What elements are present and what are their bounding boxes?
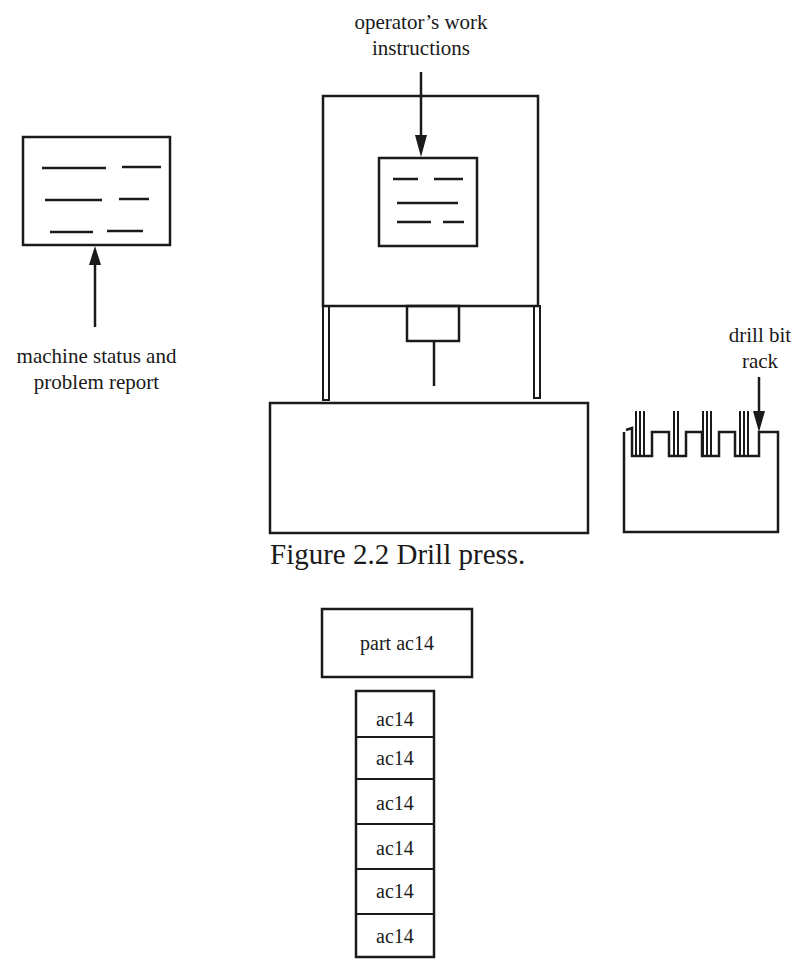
- part-header-box: part ac14: [322, 609, 472, 677]
- work-instructions-arrow: [415, 72, 427, 157]
- part-stack-item: ac14: [376, 708, 414, 730]
- drill-bit-rack-label-line1: drill bit: [712, 322, 800, 348]
- spindle-chuck: [407, 306, 459, 341]
- work-instructions-label-line1: operator’s work: [321, 9, 521, 35]
- part-stack-item: ac14: [376, 837, 414, 859]
- work-instructions-document-icon: [379, 158, 477, 246]
- part-stack-item: ac14: [376, 880, 414, 902]
- drill-press-base: [270, 403, 588, 533]
- status-report-arrow: [89, 246, 101, 327]
- status-report-document-icon: [23, 137, 170, 245]
- status-report-label: machine status and problem report: [0, 343, 193, 395]
- drill-bit-rack-label-line2: rack: [712, 348, 800, 374]
- drill-press-head: [323, 96, 538, 306]
- figure-caption: Figure 2.2 Drill press.: [270, 537, 525, 571]
- part-stack: ac14 ac14 ac14 ac14 ac14 ac14: [356, 691, 434, 957]
- work-instructions-label-line2: instructions: [321, 35, 521, 61]
- status-report-label-line1: machine status and: [0, 343, 193, 369]
- drill-bit-rack-arrow: [753, 377, 765, 432]
- part-stack-item: ac14: [376, 792, 414, 814]
- drill-press-diagram: part ac14 ac14 ac14 ac14 ac14 ac14 ac14: [0, 0, 800, 967]
- status-report-label-line2: problem report: [0, 369, 193, 395]
- right-column: [534, 306, 540, 398]
- work-instructions-label: operator’s work instructions: [321, 9, 521, 61]
- part-stack-item: ac14: [376, 747, 414, 769]
- left-column: [323, 306, 329, 400]
- part-stack-item: ac14: [376, 925, 414, 947]
- drill-bit-rack-label: drill bit rack: [712, 322, 800, 374]
- drill-bit-rack: [624, 411, 778, 532]
- part-header-label: part ac14: [360, 632, 434, 655]
